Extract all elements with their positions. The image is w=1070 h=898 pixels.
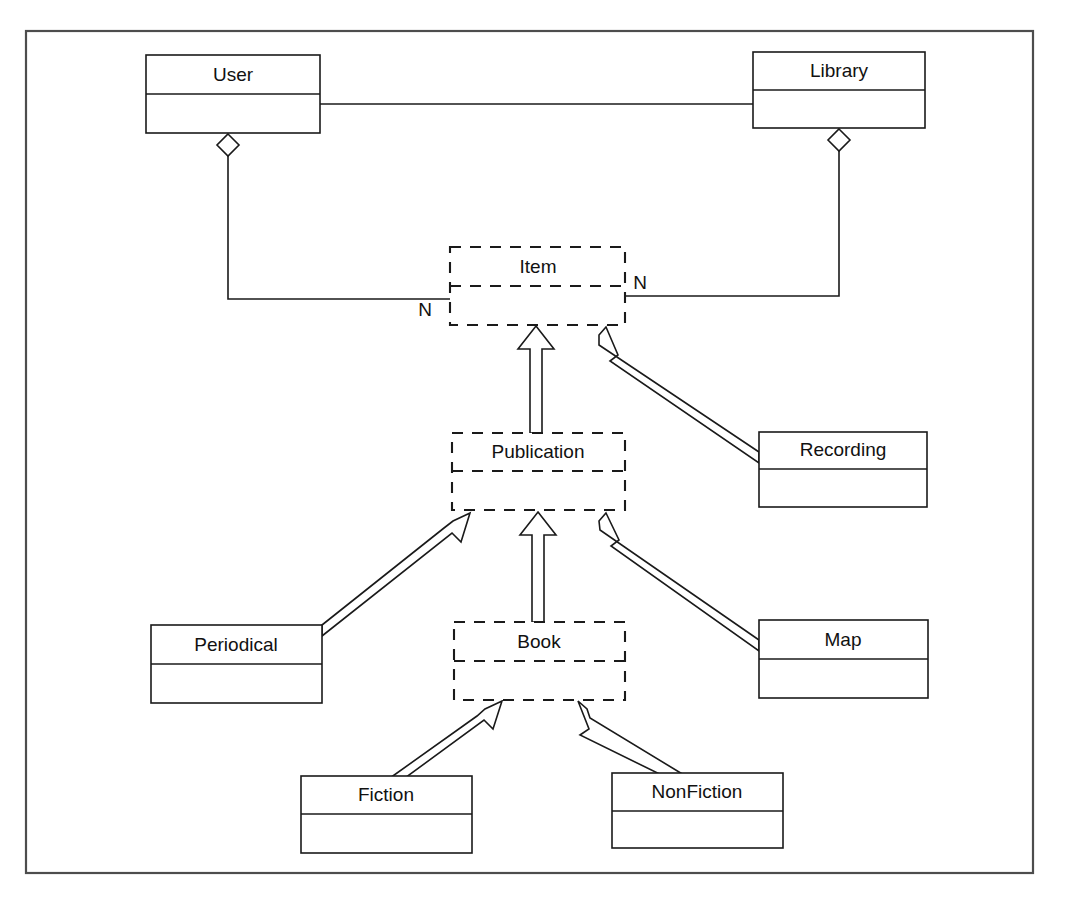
uml-class-diagram: N N <box>0 0 1070 898</box>
diagram-canvas: N N <box>0 0 1070 898</box>
aggregation-user-item[interactable]: N <box>217 134 450 320</box>
class-box-book[interactable]: Book <box>454 622 625 700</box>
class-name-library: Library <box>810 60 869 81</box>
class-name-item: Item <box>520 256 557 277</box>
aggregation-library-item[interactable]: N <box>625 129 850 296</box>
class-name-fiction: Fiction <box>358 784 414 805</box>
generalization-arrow-book-publication <box>520 512 556 622</box>
class-name-publication: Publication <box>492 441 585 462</box>
class-name-nonfiction: NonFiction <box>652 781 743 802</box>
generalization-book-publication[interactable] <box>520 512 556 622</box>
class-name-periodical: Periodical <box>194 634 277 655</box>
class-name-recording: Recording <box>800 439 887 460</box>
generalization-arrow-periodical-publication <box>322 513 470 636</box>
aggregation-line-user-item <box>228 156 450 299</box>
generalization-publication-item[interactable] <box>518 326 554 433</box>
class-box-library[interactable]: Library <box>753 52 925 128</box>
class-box-nonfiction[interactable]: NonFiction <box>612 773 783 848</box>
aggregation-diamond-library <box>828 129 850 151</box>
class-name-book: Book <box>517 631 561 652</box>
aggregation-diamond-user <box>217 134 239 156</box>
class-name-user: User <box>213 64 254 85</box>
class-box-item[interactable]: Item <box>450 247 625 325</box>
class-box-fiction[interactable]: Fiction <box>301 776 472 853</box>
multiplicity-label-user-item: N <box>418 299 432 320</box>
generalization-arrow-publication-item <box>518 326 554 433</box>
aggregation-line-library-item <box>625 151 839 296</box>
class-box-user[interactable]: User <box>146 55 320 133</box>
class-name-map: Map <box>825 629 862 650</box>
class-box-map[interactable]: Map <box>759 620 928 698</box>
class-box-recording[interactable]: Recording <box>759 432 927 507</box>
class-box-periodical[interactable]: Periodical <box>151 625 322 703</box>
multiplicity-label-library-item: N <box>633 272 647 293</box>
class-box-publication[interactable]: Publication <box>452 433 625 510</box>
generalization-periodical-publication[interactable] <box>322 513 470 636</box>
